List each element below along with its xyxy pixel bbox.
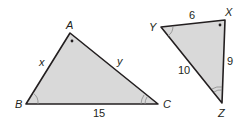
similar-triangles-diagram: A B C x y 15 X Y Z 6 9 10 xyxy=(0,0,248,121)
side-yz-label: 10 xyxy=(178,64,190,76)
side-ab-label: x xyxy=(38,56,45,68)
triangle-xyz: X Y Z 6 9 10 xyxy=(149,6,233,119)
side-yx-label: 6 xyxy=(189,9,195,21)
vertex-a-label: A xyxy=(65,19,73,31)
vertex-x-label: X xyxy=(224,6,233,18)
triangle-abc: A B C x y 15 xyxy=(15,19,171,119)
vertex-z-label: Z xyxy=(217,107,226,119)
vertex-c-label: C xyxy=(163,98,171,110)
side-xz-label: 9 xyxy=(227,55,233,67)
angle-x-dot-mark xyxy=(219,24,222,27)
vertex-b-label: B xyxy=(15,98,22,110)
angle-a-dot-mark xyxy=(71,40,74,43)
side-bc-label: 15 xyxy=(93,107,105,119)
triangle-abc-shape xyxy=(26,33,158,104)
triangle-xyz-shape xyxy=(161,20,225,103)
side-ac-label: y xyxy=(116,55,124,67)
vertex-y-label: Y xyxy=(149,21,157,33)
